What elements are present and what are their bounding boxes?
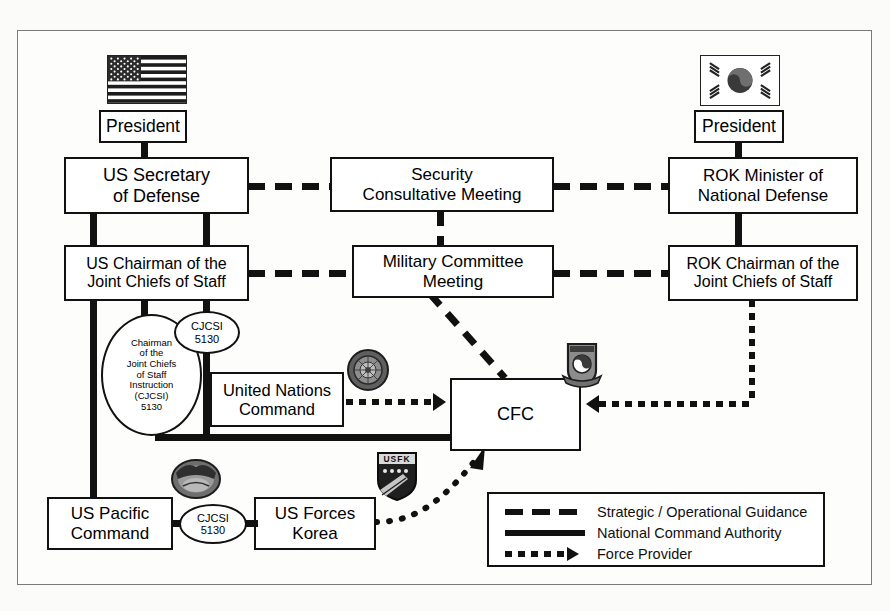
legend-label-force-provider: Force Provider (591, 546, 692, 562)
box-security-consultative-meeting-label: Security Consultative Meeting (360, 165, 525, 203)
box-rok-minister-of-national-defense[interactable]: ROK Minister of National Defense (668, 157, 858, 214)
republic-of-korea-flag-icon (700, 55, 780, 106)
connector-secdef-to-scm-dashed (248, 183, 330, 190)
connector-us-president-to-secdef (141, 142, 148, 158)
box-cfc-label: CFC (494, 404, 537, 424)
box-rok-president-label: President (699, 117, 779, 137)
us-forces-korea-shield-patch-icon: USFK (375, 450, 419, 502)
box-us-forces-korea-label: US Forces Korea (272, 504, 358, 542)
connector-mnd-to-rok-cjcs (735, 213, 742, 246)
legend-key-dotted-arrow (499, 547, 591, 561)
legend-row-strategic-guidance: Strategic / Operational Guidance (499, 501, 813, 522)
legend: Strategic / Operational Guidance Nationa… (487, 492, 825, 567)
legend-row-national-command-authority: National Command Authority (499, 522, 813, 543)
legend-label-strategic-guidance: Strategic / Operational Guidance (591, 504, 807, 520)
connector-mcm-to-cfc-dashed (420, 290, 540, 390)
connector-cjcs-to-pacom-spine (90, 300, 97, 500)
connector-mcm-to-rok-cjcs-dashed (553, 270, 671, 277)
connector-secdef-to-cjcs-left (90, 213, 97, 246)
oval-cjcsi-5130-top-label: CJCSI 5130 (191, 320, 223, 345)
rok-joint-chiefs-of-staff-crest-icon (558, 338, 606, 390)
box-military-committee-meeting-label: Military Committee Meeting (380, 252, 527, 290)
box-security-consultative-meeting[interactable]: Security Consultative Meeting (330, 157, 554, 212)
box-us-pacific-command-label: US Pacific Command (68, 504, 152, 542)
connector-cjcsi-small-to-unc-line (203, 348, 210, 438)
box-united-nations-command[interactable]: United Nations Command (210, 372, 344, 427)
united-nations-emblem-icon (346, 348, 390, 392)
connector-rok-president-to-mnd (735, 142, 742, 158)
connector-rok-cjcs-to-cfc-vertical-dotted (749, 300, 755, 404)
box-us-pacific-command[interactable]: US Pacific Command (47, 497, 173, 550)
box-rok-chairman-joint-chiefs-label: ROK Chairman of the Joint Chiefs of Staf… (684, 255, 843, 291)
connector-unc-to-cfc-dotted (333, 399, 433, 405)
box-us-chairman-joint-chiefs-label: US Chairman of the Joint Chiefs of Staff (83, 255, 230, 291)
us-pacific-command-crest-icon (170, 455, 222, 499)
box-us-forces-korea[interactable]: US Forces Korea (254, 497, 376, 550)
connector-cjcs-to-mcm-dashed (248, 270, 353, 277)
box-military-committee-meeting[interactable]: Military Committee Meeting (352, 245, 554, 298)
united-states-flag-icon (107, 55, 187, 104)
diagram-canvas: USFK President President US Secretary of… (0, 0, 890, 611)
svg-text:USFK: USFK (383, 454, 410, 464)
legend-key-dashed-line (499, 505, 591, 519)
connector-rok-cjcs-to-cfc-horizontal-dotted (599, 401, 752, 407)
box-us-secretary-of-defense[interactable]: US Secretary of Defense (64, 157, 249, 214)
oval-cjcsi-5130-top[interactable]: CJCSI 5130 (174, 311, 240, 354)
oval-cjcsi-5130-pacific-label: CJCSI 5130 (197, 512, 229, 537)
connector-secdef-to-cjcs-right (203, 213, 210, 246)
box-rok-chairman-joint-chiefs[interactable]: ROK Chairman of the Joint Chiefs of Staf… (668, 245, 858, 301)
legend-label-national-command-authority: National Command Authority (591, 525, 782, 541)
connector-unc-to-cfc-arrowhead (433, 393, 446, 411)
box-rok-minister-of-national-defense-label: ROK Minister of National Defense (695, 166, 831, 204)
box-us-secretary-of-defense-label: US Secretary of Defense (100, 165, 213, 205)
legend-row-force-provider: Force Provider (499, 543, 813, 564)
connector-scm-to-mcm-dashed (437, 212, 444, 246)
box-us-president[interactable]: President (99, 110, 187, 143)
oval-cjcsi-instruction-label: Chairman of the Joint Chiefs of Staff In… (127, 338, 177, 412)
box-us-president-label: President (103, 117, 183, 137)
legend-key-solid-line (499, 526, 591, 540)
connector-scm-to-mnd-dashed (553, 183, 671, 190)
oval-cjcsi-5130-pacific[interactable]: CJCSI 5130 (179, 504, 247, 544)
box-us-chairman-joint-chiefs[interactable]: US Chairman of the Joint Chiefs of Staff (64, 245, 249, 301)
box-rok-president[interactable]: President (694, 110, 784, 143)
box-united-nations-command-label: United Nations Command (220, 381, 334, 418)
connector-rok-cjcs-to-cfc-arrowhead (586, 395, 599, 413)
